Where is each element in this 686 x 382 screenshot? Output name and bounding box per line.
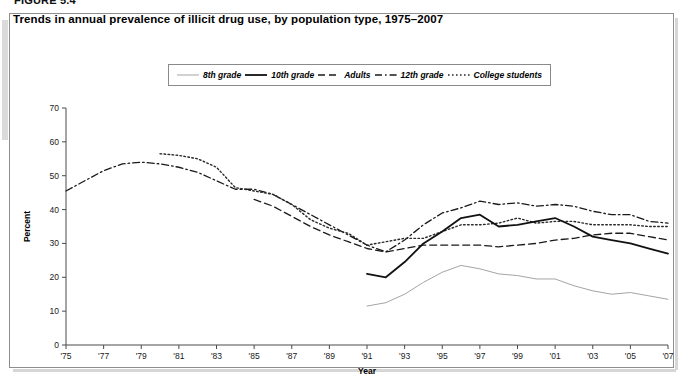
y-tick-label: 50	[50, 171, 60, 181]
series-line-8th-grade	[367, 265, 668, 306]
y-tick-label: 0	[54, 340, 59, 350]
x-tick-label: '91	[361, 351, 372, 361]
x-tick-label: '03	[587, 351, 598, 361]
series-line-10th-grade	[367, 215, 668, 278]
x-tick-label: '87	[286, 351, 297, 361]
chart-plot-area: 010203040506070'75'77'79'81'83'85'87'89'…	[0, 0, 686, 382]
x-tick-label: '05	[625, 351, 636, 361]
x-tick-label: '07	[662, 351, 673, 361]
x-tick-label: '83	[211, 351, 222, 361]
x-axis-title: Year	[358, 366, 377, 376]
y-tick-label: 70	[50, 103, 60, 113]
x-tick-label: '81	[173, 351, 184, 361]
x-tick-label: '79	[136, 351, 147, 361]
y-tick-label: 40	[50, 205, 60, 215]
x-tick-label: '99	[512, 351, 523, 361]
x-tick-label: '95	[437, 351, 448, 361]
y-tick-label: 60	[50, 137, 60, 147]
x-tick-label: '97	[474, 351, 485, 361]
y-axis-title: Percent	[22, 211, 32, 242]
x-tick-label: '01	[550, 351, 561, 361]
x-tick-label: '75	[60, 351, 71, 361]
series-line-college-students	[160, 154, 668, 245]
figure-page: FIGURE 5.4 Trends in annual prevalence o…	[0, 0, 686, 382]
x-tick-label: '77	[98, 351, 109, 361]
x-tick-label: '85	[249, 351, 260, 361]
y-tick-label: 20	[50, 272, 60, 282]
series-line-12th-grade	[66, 162, 668, 252]
x-tick-label: '93	[399, 351, 410, 361]
y-tick-label: 10	[50, 306, 60, 316]
y-tick-label: 30	[50, 238, 60, 248]
x-tick-label: '89	[324, 351, 335, 361]
